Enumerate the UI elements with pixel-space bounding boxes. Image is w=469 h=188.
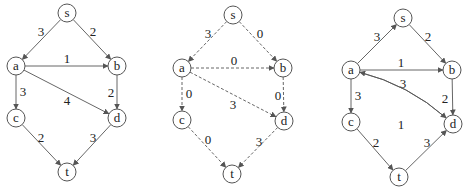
node-label: d xyxy=(114,110,121,125)
node-a: a xyxy=(7,57,25,75)
edge-weight-a-b: 0 xyxy=(231,53,238,68)
original-network-panel: 32134223sabcdt xyxy=(7,4,126,181)
node-s: s xyxy=(224,6,242,24)
node-a: a xyxy=(342,61,360,79)
edge-b-d xyxy=(283,77,284,112)
node-a: a xyxy=(173,59,191,77)
edge-weight-d-t: 3 xyxy=(90,130,97,145)
node-label: t xyxy=(230,166,234,181)
node-label: d xyxy=(281,113,288,128)
node-t: t xyxy=(58,163,76,181)
edge-weight-c-t: 0 xyxy=(205,132,212,147)
node-label: c xyxy=(179,112,185,127)
node-s: s xyxy=(394,9,412,27)
edge-weight-a-d: 3 xyxy=(230,97,237,112)
node-label: c xyxy=(348,114,354,129)
node-b: b xyxy=(443,61,461,79)
node-c: c xyxy=(342,113,360,131)
edge-weight-d-t: 3 xyxy=(256,134,263,149)
edge-b-d xyxy=(452,79,453,115)
node-t: t xyxy=(390,168,408,186)
node-d: d xyxy=(108,109,126,127)
edge-weight-b-d: 0 xyxy=(275,88,282,103)
node-label: a xyxy=(13,58,19,73)
edge-weight-b-d: 2 xyxy=(442,91,449,106)
edge-weight-b-d: 2 xyxy=(108,85,115,100)
node-label: d xyxy=(450,116,457,131)
edge-weight-a-s: 3 xyxy=(374,29,381,44)
edge-weight-a-c: 0 xyxy=(186,86,193,101)
node-label: t xyxy=(65,164,69,179)
edge-weight-a-c: 3 xyxy=(20,84,27,99)
edge-weight-c-t: 2 xyxy=(373,135,380,150)
node-label: b xyxy=(280,60,287,75)
node-label: a xyxy=(179,60,185,75)
node-c: c xyxy=(7,109,25,127)
edge-weight-s-b: 2 xyxy=(425,29,432,44)
node-label: a xyxy=(348,62,354,77)
node-label: c xyxy=(13,110,19,125)
node-d: d xyxy=(275,112,293,130)
flow-network-panel: 30003003sabcdt xyxy=(173,6,293,183)
node-label: b xyxy=(114,58,121,73)
node-d: d xyxy=(444,115,462,133)
residual-network-panel: 321331223sabcdt xyxy=(342,9,462,186)
node-t: t xyxy=(223,165,241,183)
edge-weight-s-b: 2 xyxy=(90,24,97,39)
node-s: s xyxy=(58,4,76,22)
node-label: s xyxy=(64,5,69,20)
node-b: b xyxy=(274,59,292,77)
edge-weight-a-d: 4 xyxy=(64,93,71,108)
edge-weight-t-d: 3 xyxy=(424,135,431,150)
edge-weight-a-c: 3 xyxy=(355,88,362,103)
flow-network-diagrams: 32134223sabcdt 30003003sabcdt 321331223s… xyxy=(0,0,469,188)
node-label: s xyxy=(230,7,235,22)
node-b: b xyxy=(108,57,126,75)
node-label: t xyxy=(397,169,401,184)
node-label: b xyxy=(449,62,456,77)
edge-weight-s-a: 3 xyxy=(205,26,212,41)
edge-weight-s-a: 3 xyxy=(38,24,45,39)
edge-weight-a-b: 1 xyxy=(398,55,405,70)
edge-weight-s-b: 0 xyxy=(257,26,264,41)
edge-weight-c-t: 2 xyxy=(38,130,45,145)
edge-weight-a-b: 1 xyxy=(64,51,71,66)
node-c: c xyxy=(173,111,191,129)
edge-weight-a-d: 1 xyxy=(398,117,405,132)
node-label: s xyxy=(400,10,405,25)
